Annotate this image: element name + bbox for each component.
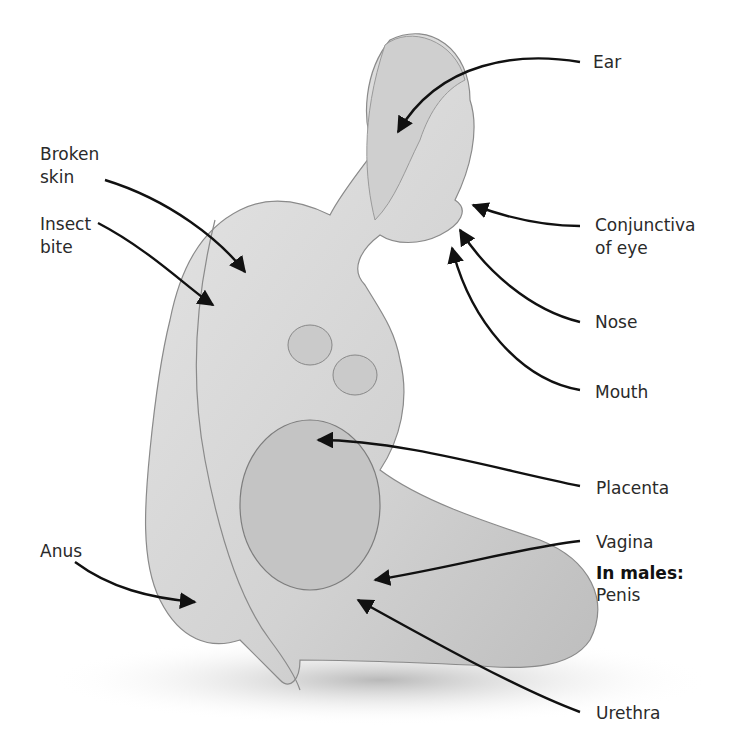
- body-illustration: [0, 0, 739, 756]
- label-mouth: Mouth: [595, 381, 648, 403]
- label-broken-skin-line2: skin: [40, 166, 74, 188]
- label-insect-bite-line2: bite: [40, 236, 73, 258]
- label-vagina: Vagina: [596, 531, 653, 553]
- label-nose: Nose: [595, 311, 637, 333]
- label-penis: Penis: [596, 584, 640, 606]
- belly-placenta: [240, 420, 380, 590]
- label-insect-bite-line1: Insect: [40, 213, 91, 235]
- label-in-males: In males:: [596, 562, 684, 584]
- label-in-males-text: In males:: [596, 563, 684, 583]
- label-anus: Anus: [40, 540, 82, 562]
- label-placenta: Placenta: [596, 477, 669, 499]
- label-conjunctiva-line1: Conjunctiva: [595, 214, 696, 236]
- label-ear: Ear: [593, 51, 621, 73]
- label-conjunctiva-line2: of eye: [595, 237, 648, 259]
- label-urethra: Urethra: [596, 702, 660, 724]
- breast-right: [333, 355, 377, 395]
- breast-left: [288, 325, 332, 365]
- label-broken-skin-line1: Broken: [40, 143, 99, 165]
